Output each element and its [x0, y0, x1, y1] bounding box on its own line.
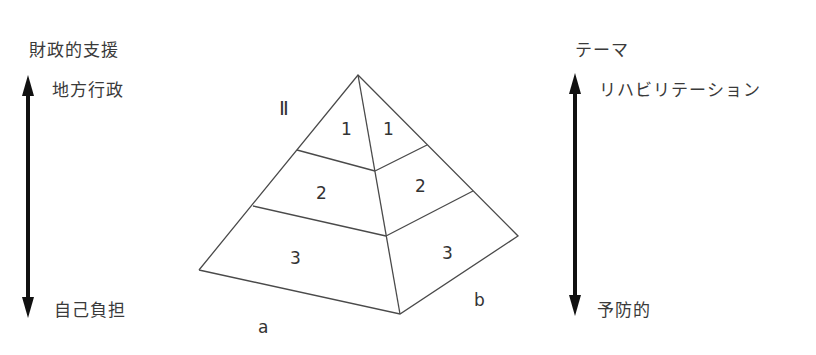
face-b-band-3-label: 3 [442, 243, 453, 263]
face-a-band-3-label: 3 [290, 248, 301, 268]
face-b-division-1 [375, 145, 427, 171]
right-axis-bottom-label: 予防的 [597, 296, 651, 321]
face-a-division-1 [297, 150, 375, 171]
left-double-arrow [22, 75, 34, 318]
face-a-label: a [258, 317, 268, 337]
face-a-band-1-label: 1 [341, 119, 352, 139]
face-b-division-2 [386, 191, 473, 236]
face-a-division-2 [253, 206, 386, 236]
face-a-band-2-label: 2 [316, 183, 327, 203]
right-axis-title: テーマ [575, 36, 629, 61]
right-double-arrow [569, 73, 581, 316]
face-b-band-1-label: 1 [383, 119, 394, 139]
right-axis-top-label: リハビリテーション [599, 76, 761, 101]
pyramid-roman-label: Ⅱ [279, 96, 289, 120]
face-b-label: b [474, 290, 485, 310]
left-axis-top-label: 地方行政 [52, 76, 124, 101]
pyramid [199, 75, 518, 314]
pyramid-outline [199, 75, 518, 314]
face-b-band-2-label: 2 [415, 176, 426, 196]
left-axis-bottom-label: 自己負担 [54, 296, 126, 321]
left-axis-title: 財政的支援 [29, 36, 119, 61]
